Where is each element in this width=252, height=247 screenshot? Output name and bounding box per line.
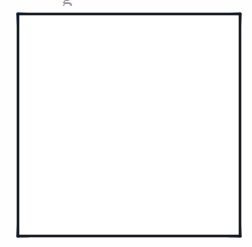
- figure-page: g: [0, 0, 252, 247]
- square-border: [18, 14, 240, 236]
- rosette-svg: [0, 0, 252, 247]
- geometry-figure: [0, 0, 252, 247]
